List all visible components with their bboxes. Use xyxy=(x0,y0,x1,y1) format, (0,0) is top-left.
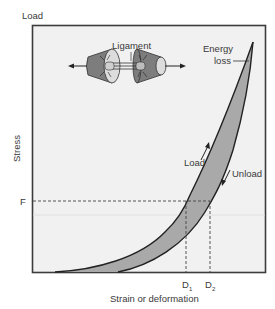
force-marker-label: F xyxy=(20,196,26,207)
right-bone-face xyxy=(156,57,166,75)
d2-label: D 2 xyxy=(205,279,216,292)
d1-subscript: 1 xyxy=(189,286,193,292)
y-axis-top-label: Load xyxy=(22,10,43,21)
d1-label: D 1 xyxy=(182,279,193,292)
d2-letter: D xyxy=(205,279,212,290)
d2-subscript: 2 xyxy=(212,286,216,292)
stress-strain-diagram: Load Stress F Strain or deformation Liga… xyxy=(0,0,275,309)
d1-letter: D xyxy=(182,279,189,290)
y-axis-label: Stress xyxy=(11,135,22,162)
unload-curve-label: Unload xyxy=(232,168,262,179)
energy-loss-label-line1: Energy xyxy=(203,43,233,54)
x-axis-label: Strain or deformation xyxy=(110,293,199,304)
load-curve-label: Load xyxy=(184,157,205,168)
ligament-label: Ligament xyxy=(112,40,151,51)
energy-loss-label-line2: loss xyxy=(214,55,231,66)
